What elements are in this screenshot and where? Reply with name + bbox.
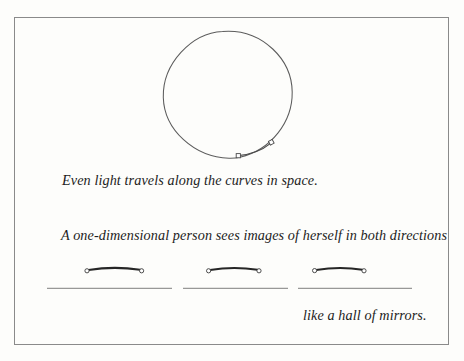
caption-line-3: like a hall of mirrors. (303, 307, 427, 324)
caption-line-1: Even light travels along the curves in s… (62, 172, 318, 189)
caption-line-2: A one-dimensional person sees images of … (61, 227, 447, 244)
figure-page: Even light travels along the curves in s… (0, 0, 464, 361)
